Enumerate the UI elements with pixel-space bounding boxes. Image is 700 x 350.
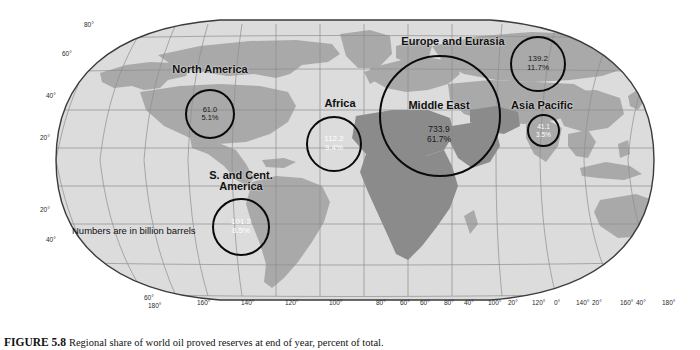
lat-label-60n: 60° [62, 50, 72, 57]
bubble-africa[interactable]: 112.2 9.4% [306, 116, 362, 172]
lat-label-20n: 20° [40, 134, 50, 141]
lon-label-120w: 120° [285, 299, 298, 306]
lon-label-160w: 160° [197, 299, 210, 306]
lon-label-140e: 140° [576, 299, 589, 306]
lon-label-20w: 20° [508, 299, 518, 306]
lon-label-120e: 120° [532, 299, 545, 306]
lat-label-60s: 60° [144, 294, 154, 301]
bubble-europe-eurasia[interactable]: 139.2 11.7% [510, 36, 566, 92]
bubble-percent-south-central-america: 8.5% [232, 227, 250, 236]
lon-label-20e: 20° [592, 299, 602, 306]
lon-label-60w: 60° [420, 299, 430, 306]
bubble-middle-east[interactable] [379, 55, 501, 177]
region-label-asia-pacific: Asia Pacific [500, 100, 584, 112]
lon-label-80e: 80° [444, 299, 454, 306]
lon-label-60e: 60° [400, 299, 410, 306]
region-label-south-central-america-line2: America [186, 181, 296, 193]
bubble-asia-pacific[interactable]: 41.1 3.5% [527, 114, 560, 147]
lon-label-180e: 180° [662, 299, 675, 306]
figure-caption-label: FIGURE 5.8 [4, 336, 66, 348]
region-label-north-america: North America [160, 64, 260, 76]
lon-label-100e: 100° [488, 299, 501, 306]
lat-label-40n: 40° [46, 92, 56, 99]
bubble-percent-europe-eurasia: 11.7% [527, 64, 549, 73]
lon-label-40w: 40° [464, 299, 474, 306]
figure-caption: FIGURE 5.8 Regional share of world oil p… [4, 336, 698, 350]
lon-label-140w: 140° [241, 299, 254, 306]
bubble-percent-africa: 9.4% [325, 144, 343, 153]
lon-label-180w: 180° [148, 302, 161, 309]
lat-label-20s: 20° [40, 206, 50, 213]
lon-label-100w: 100° [329, 299, 342, 306]
land-new-zealand [662, 240, 670, 256]
figure-caption-text: Regional share of world oil proved reser… [69, 337, 384, 348]
world-map: 80° 60° 40° 20° 20° 40° 60° 180° 160° 14… [40, 10, 670, 320]
bubble-north-america[interactable]: 61.0 5.1% [185, 89, 235, 139]
world-map-svg [40, 10, 670, 320]
lon-label-80w: 80° [376, 299, 386, 306]
bubble-percent-asia-pacific: 3.5% [536, 131, 551, 138]
region-label-europe-eurasia: Europe and Eurasia [378, 36, 528, 48]
lat-label-80: 80° [84, 21, 94, 28]
units-note: Numbers are in billion barrels [72, 225, 196, 236]
bubble-south-central-america[interactable]: 101.2 8.5% [212, 198, 270, 256]
lat-label-40s: 40° [46, 236, 56, 243]
region-label-africa: Africa [310, 98, 370, 110]
lon-label-40e: 40° [636, 299, 646, 306]
bubble-percent-north-america: 5.1% [201, 114, 218, 122]
bubble-value-asia-pacific: 41.1 [537, 123, 550, 130]
figure-root: 80° 60° 40° 20° 20° 40° 60° 180° 160° 14… [0, 0, 700, 350]
lon-label-160e: 160° [620, 299, 633, 306]
lon-label-0: 0° [554, 299, 560, 306]
